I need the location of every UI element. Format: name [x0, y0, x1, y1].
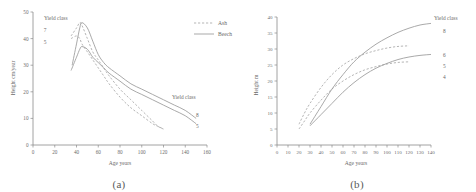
panel-a-y-axis-label: Height cm/year: [10, 61, 16, 96]
panel-b-curves: [299, 23, 431, 129]
panel-b-label-yield-6: 6: [443, 52, 446, 58]
panel-a-x-tick-label: 100: [138, 149, 146, 155]
panel-a-label-yield-5-left: 5: [44, 39, 47, 45]
panel-a-x-axis-label: Age years: [109, 160, 132, 166]
panel-a-x-tick-label: 60: [96, 149, 102, 155]
panel-b-series-line: [299, 46, 409, 124]
panel-a-y-tick-label: 40: [23, 36, 29, 42]
panel-a-label-yield-5-right: 5: [196, 123, 199, 129]
panel-a-yield-class-title-right: Yield class: [172, 94, 196, 100]
panel-b-yield-class-title: Yield class: [434, 15, 458, 21]
panel-b-x-tick-label: 90: [374, 150, 380, 155]
panel-b-y-tick-label: 10: [268, 111, 274, 116]
panel-b-x-tick-label: 60: [341, 150, 347, 155]
panel-a-x-tick-label: 160: [203, 149, 211, 155]
panel-b-x-tick-label: 50: [330, 150, 336, 155]
panel-a-x-tick-label: 120: [160, 149, 168, 155]
panel-a-y-tick-label: 30: [23, 62, 29, 68]
panel-b-label-yield-4: 4: [443, 74, 446, 80]
chart-panel-a: 01020304050 020406080100120140160 Age ye…: [0, 0, 238, 192]
panel-b-series-line: [310, 23, 431, 124]
panel-b-x-tick-label: 80: [363, 150, 369, 155]
panel-b-label-yield-5: 5: [443, 63, 446, 69]
panel-b-y-tick-label: 5: [270, 127, 273, 132]
panel-b-x-tick-label: 40: [319, 150, 325, 155]
panel-b-x-tick-label: 0: [276, 150, 279, 155]
series-legend: Ash Beech: [194, 20, 232, 37]
panel-b-plot: 0510152025303540 01020304050607080901001…: [238, 0, 476, 192]
panel-a-series-line: [72, 23, 196, 119]
panel-a-curves: [71, 22, 196, 129]
panel-a-plot: 01020304050 020406080100120140160 Age ye…: [0, 0, 238, 192]
panel-a-series-line: [71, 22, 163, 129]
panel-b-y-ticks: 0510152025303540: [268, 15, 278, 148]
panel-b-y-tick-label: 15: [268, 95, 274, 100]
panel-b-y-tick-label: 20: [268, 79, 274, 84]
panel-b-x-tick-label: 20: [297, 150, 303, 155]
panel-b-y-tick-label: 0: [270, 143, 273, 148]
panel-a-x-tick-label: 80: [117, 149, 123, 155]
panel-a-y-tick-label: 50: [23, 9, 29, 15]
panel-b-y-tick-label: 35: [268, 31, 274, 36]
panel-b-x-tick-label: 120: [405, 150, 413, 155]
panel-b-y-axis-label: Height m: [253, 74, 259, 96]
panel-a-caption: (a): [0, 178, 238, 190]
panel-b-caption: (b): [238, 178, 476, 190]
panel-a-y-tick-label: 0: [26, 142, 29, 148]
panel-a-x-tick-label: 140: [181, 149, 189, 155]
panel-b-label-yield-8: 8: [443, 28, 446, 34]
panel-b-x-tick-label: 10: [286, 150, 292, 155]
panel-a-axes: [33, 12, 207, 145]
figure-container: 01020304050 020406080100120140160 Age ye…: [0, 0, 476, 192]
panel-a-label-yield-7: 7: [44, 27, 47, 33]
panel-b-x-ticks: 0102030405060708090100110120130140: [276, 145, 436, 155]
panel-b-x-tick-label: 140: [427, 150, 435, 155]
panel-b-y-tick-label: 25: [268, 63, 274, 68]
panel-a-y-tick-label: 20: [23, 89, 29, 95]
panel-b-x-tick-label: 30: [308, 150, 314, 155]
panel-b-y-tick-label: 30: [268, 47, 274, 52]
panel-b-series-line: [310, 54, 431, 125]
panel-a-label-yield-8: 8: [196, 112, 199, 118]
panel-a-y-tick-label: 10: [23, 115, 29, 121]
panel-b-x-tick-label: 100: [383, 150, 391, 155]
panel-a-x-ticks: 020406080100120140160: [32, 145, 212, 155]
panel-a-y-ticks: 01020304050: [23, 9, 33, 148]
panel-b-axes: [277, 17, 431, 145]
panel-b-x-tick-label: 130: [416, 150, 424, 155]
panel-a-yield-class-title-left: Yield class: [44, 15, 68, 21]
panel-a-x-tick-label: 0: [32, 149, 35, 155]
panel-b-y-tick-label: 40: [268, 15, 274, 20]
panel-a-x-tick-label: 20: [52, 149, 58, 155]
panel-b-x-tick-label: 70: [352, 150, 358, 155]
panel-a-x-tick-label: 40: [74, 149, 80, 155]
legend-label-ash: Ash: [218, 20, 227, 26]
chart-panel-b: 0510152025303540 01020304050607080901001…: [238, 0, 476, 192]
panel-b-x-axis-label: Age years: [345, 160, 368, 166]
panel-b-x-tick-label: 110: [394, 150, 402, 155]
panel-a-series-line: [71, 36, 163, 129]
legend-label-beech: Beech: [218, 31, 232, 37]
